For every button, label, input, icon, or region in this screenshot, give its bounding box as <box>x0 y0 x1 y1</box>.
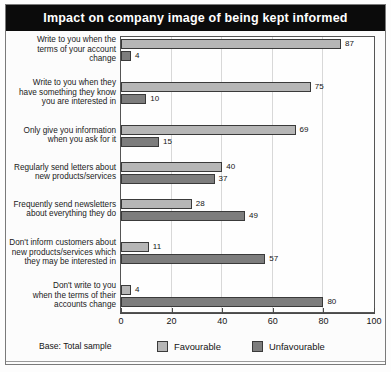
category-label-line: terms of your account <box>4 45 116 55</box>
category-label-line: have something they know <box>4 88 116 98</box>
bar-unfavourable: 80 <box>121 297 374 307</box>
legend-label-unfavourable: Unfavourable <box>269 341 325 352</box>
bar-value-label: 37 <box>219 174 228 184</box>
bar-rect <box>121 297 323 307</box>
bar-rect <box>121 199 192 209</box>
base-label: Base: Total sample <box>39 341 111 351</box>
bar-favourable: 28 <box>121 199 374 209</box>
category-label-line: Frequently send newsletters <box>4 200 116 210</box>
category-label: Frequently send newslettersabout everyth… <box>4 200 116 219</box>
x-axis-tick-label: 40 <box>217 316 227 326</box>
bar-rect <box>121 174 215 184</box>
category-label-line: Don't write to you <box>4 281 116 291</box>
category-label: Write to you when theterms of your accou… <box>4 35 116 64</box>
bar-group: Regularly send letters aboutnew products… <box>0 162 391 184</box>
bar-value-label: 4 <box>135 285 139 295</box>
bar-unfavourable: 15 <box>121 137 374 147</box>
bar-value-label: 15 <box>163 137 172 147</box>
bar-group: Write to you when theyhave something the… <box>0 82 391 104</box>
bar-rect <box>121 125 296 135</box>
category-label-line: when you ask for it <box>4 135 116 145</box>
x-axis-tick-label: 60 <box>268 316 278 326</box>
chart-container: Impact on company image of being kept in… <box>0 0 391 372</box>
bar-group: Write to you when theterms of your accou… <box>0 39 391 61</box>
bar-value-label: 11 <box>153 242 161 252</box>
bar-unfavourable: 10 <box>121 94 374 104</box>
legend-swatch-unfavourable-icon <box>252 341 263 352</box>
bar-rect <box>121 94 146 104</box>
x-axis-line <box>120 313 375 314</box>
bar-rect <box>121 285 131 295</box>
legend-item-favourable: Favourable <box>157 341 221 352</box>
x-axis-tick-label: 100 <box>366 316 381 326</box>
x-axis-tick <box>222 308 223 314</box>
category-label-line: about everything they do <box>4 209 116 219</box>
category-label-line: accounts change <box>4 300 116 310</box>
bar-rect <box>121 162 222 172</box>
page-title: Impact on company image of being kept in… <box>43 11 347 25</box>
bar-value-label: 40 <box>226 162 235 172</box>
category-label-line: Write to you when the <box>4 35 116 45</box>
bar-value-label: 75 <box>315 82 324 92</box>
x-axis-tick-label: 20 <box>167 316 177 326</box>
bar-rect <box>121 82 311 92</box>
bar-rect <box>121 211 245 221</box>
bar-rect <box>121 51 131 61</box>
x-axis-tick <box>323 308 324 314</box>
bar-favourable: 87 <box>121 39 374 49</box>
x-axis-tick-label: 0 <box>118 316 123 326</box>
legend-label-favourable: Favourable <box>174 341 221 352</box>
category-label: Don't inform customers aboutnew products… <box>4 238 116 267</box>
category-label-line: you are interested in <box>4 97 116 107</box>
bar-value-label: 69 <box>300 125 309 135</box>
bar-unfavourable: 49 <box>121 211 374 221</box>
x-axis-tick <box>273 308 274 314</box>
bar-rect <box>121 242 149 252</box>
bar-value-label: 80 <box>327 297 336 307</box>
bar-unfavourable: 37 <box>121 174 374 184</box>
category-label-line: Don't inform customers about <box>4 238 116 248</box>
category-label: Regularly send letters aboutnew products… <box>4 163 116 182</box>
category-label-line: Regularly send letters about <box>4 163 116 173</box>
category-label: Only give you informationwhen you ask fo… <box>4 126 116 145</box>
category-label-line: change <box>4 54 116 64</box>
bar-favourable: 75 <box>121 82 374 92</box>
category-label-line: Write to you when they <box>4 78 116 88</box>
bar-favourable: 4 <box>121 285 374 295</box>
bar-value-label: 4 <box>135 51 139 61</box>
chart-footer: Base: Total sample Favourable Unfavourab… <box>6 334 385 358</box>
bar-groups: Write to you when theterms of your accou… <box>0 36 391 313</box>
bar-unfavourable: 4 <box>121 51 374 61</box>
bar-group: Don't write to youwhen the terms of thei… <box>0 285 391 307</box>
category-label: Don't write to youwhen the terms of thei… <box>4 281 116 310</box>
category-label-line: Only give you information <box>4 126 116 136</box>
bar-rect <box>121 137 159 147</box>
bar-value-label: 49 <box>249 211 258 221</box>
bar-group: Frequently send newslettersabout everyth… <box>0 199 391 221</box>
bar-value-label: 57 <box>269 254 278 264</box>
bar-favourable: 69 <box>121 125 374 135</box>
bar-rect <box>121 254 265 264</box>
x-axis-tick <box>374 308 375 314</box>
bar-value-label: 10 <box>150 94 159 104</box>
bar-value-label: 87 <box>345 39 354 49</box>
legend-swatch-favourable-icon <box>157 341 168 352</box>
footer-divider <box>6 361 385 362</box>
bar-unfavourable: 57 <box>121 254 374 264</box>
bar-favourable: 11 <box>121 242 374 252</box>
bar-group: Don't inform customers aboutnew products… <box>0 242 391 264</box>
bar-value-label: 28 <box>196 199 205 209</box>
bar-favourable: 40 <box>121 162 374 172</box>
x-axis-tick <box>121 308 122 314</box>
x-axis-tick <box>172 308 173 314</box>
bar-rect <box>121 39 341 49</box>
bar-group: Only give you informationwhen you ask fo… <box>0 125 391 147</box>
chart-title-bar: Impact on company image of being kept in… <box>6 5 385 31</box>
category-label: Write to you when theyhave something the… <box>4 78 116 107</box>
x-axis-tick-label: 80 <box>318 316 328 326</box>
category-label-line: they may be interested in <box>4 257 116 267</box>
category-label-line: new products/services which <box>4 248 116 258</box>
category-label-line: new products/services <box>4 172 116 182</box>
legend-item-unfavourable: Unfavourable <box>252 341 325 352</box>
category-label-line: when the terms of their <box>4 291 116 301</box>
